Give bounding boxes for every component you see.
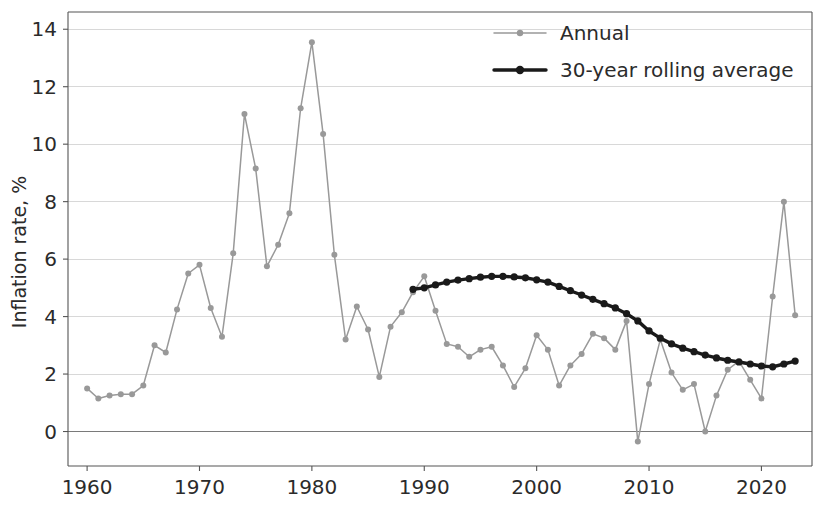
data-point xyxy=(432,281,439,288)
data-point xyxy=(624,318,630,324)
data-point xyxy=(309,39,315,45)
data-point xyxy=(331,252,337,258)
data-point xyxy=(556,383,562,389)
data-point xyxy=(489,344,495,350)
data-point xyxy=(174,306,180,312)
data-point xyxy=(522,274,529,281)
x-tick-label-2000: 2000 xyxy=(511,475,562,499)
data-point xyxy=(241,111,247,117)
data-point xyxy=(208,305,214,311)
data-point xyxy=(792,358,799,365)
data-point xyxy=(713,393,719,399)
x-tick-label-1960: 1960 xyxy=(62,475,113,499)
legend-marker-swatch xyxy=(517,30,523,36)
data-point xyxy=(769,363,776,370)
data-point xyxy=(589,296,596,303)
data-point xyxy=(488,273,495,280)
data-point xyxy=(511,384,517,390)
data-point xyxy=(634,317,641,324)
data-point xyxy=(758,362,765,369)
y-tick-label-12: 12 xyxy=(32,75,57,99)
data-point xyxy=(735,358,742,365)
data-point xyxy=(388,324,394,330)
data-point xyxy=(534,332,540,338)
data-point xyxy=(95,395,101,401)
data-point xyxy=(679,345,686,352)
data-point xyxy=(230,250,236,256)
y-tick-label-4: 4 xyxy=(44,305,57,329)
data-point xyxy=(792,312,798,318)
data-point xyxy=(780,360,787,367)
data-point xyxy=(635,439,641,445)
data-point xyxy=(298,105,304,111)
data-point xyxy=(421,273,427,279)
data-point xyxy=(500,362,506,368)
data-point xyxy=(623,310,630,317)
y-axis-title: Inflation rate, % xyxy=(8,176,30,328)
data-point xyxy=(129,391,135,397)
legend-label-rolling-average: 30-year rolling average xyxy=(560,58,794,82)
data-point xyxy=(185,270,191,276)
y-tick-label-14: 14 xyxy=(32,17,57,41)
inflation-rate-chart-figure: 02468101214 1960197019801990200020102020… xyxy=(0,0,831,521)
data-point xyxy=(264,263,270,269)
data-point xyxy=(140,383,146,389)
data-point xyxy=(724,357,731,364)
data-point xyxy=(645,327,652,334)
data-point xyxy=(556,283,563,290)
data-point xyxy=(421,284,428,291)
data-point xyxy=(522,365,528,371)
data-point xyxy=(747,360,754,367)
data-point xyxy=(399,309,405,315)
x-tick-label-2010: 2010 xyxy=(624,475,675,499)
data-point xyxy=(770,293,776,299)
data-point xyxy=(118,391,124,397)
legend-marker-swatch xyxy=(516,66,524,74)
data-point xyxy=(758,395,764,401)
data-point xyxy=(466,275,473,282)
x-tick-label-1980: 1980 xyxy=(286,475,337,499)
data-point xyxy=(84,385,90,391)
data-point xyxy=(702,429,708,435)
data-point xyxy=(219,334,225,340)
data-point xyxy=(669,370,675,376)
data-point xyxy=(376,374,382,380)
data-point xyxy=(163,350,169,356)
data-point xyxy=(544,279,551,286)
data-point xyxy=(286,210,292,216)
data-point xyxy=(646,381,652,387)
x-tick-label-1970: 1970 xyxy=(174,475,225,499)
data-point xyxy=(579,351,585,357)
data-point xyxy=(152,342,158,348)
data-point xyxy=(107,393,113,399)
y-tick-label-10: 10 xyxy=(32,132,57,156)
data-point xyxy=(600,300,607,307)
data-point xyxy=(320,131,326,137)
x-tick-label-1990: 1990 xyxy=(399,475,450,499)
data-point xyxy=(690,348,697,355)
data-point xyxy=(612,347,618,353)
data-point xyxy=(253,166,259,172)
data-point xyxy=(477,274,484,281)
data-point xyxy=(578,291,585,298)
y-tick-label-8: 8 xyxy=(44,190,57,214)
data-point xyxy=(725,367,731,373)
data-point xyxy=(444,341,450,347)
y-tick-label-0: 0 xyxy=(44,420,57,444)
data-point xyxy=(781,199,787,205)
data-point xyxy=(454,276,461,283)
x-tick-label-2020: 2020 xyxy=(736,475,787,499)
data-point xyxy=(196,262,202,268)
data-point xyxy=(275,242,281,248)
data-point xyxy=(612,304,619,311)
data-point xyxy=(443,279,450,286)
data-point xyxy=(466,354,472,360)
y-tick-label-6: 6 xyxy=(44,247,57,271)
data-point xyxy=(511,273,518,280)
data-point xyxy=(499,273,506,280)
data-point xyxy=(590,331,596,337)
data-point xyxy=(668,340,675,347)
data-point xyxy=(747,377,753,383)
data-point xyxy=(567,287,574,294)
data-point xyxy=(567,362,573,368)
